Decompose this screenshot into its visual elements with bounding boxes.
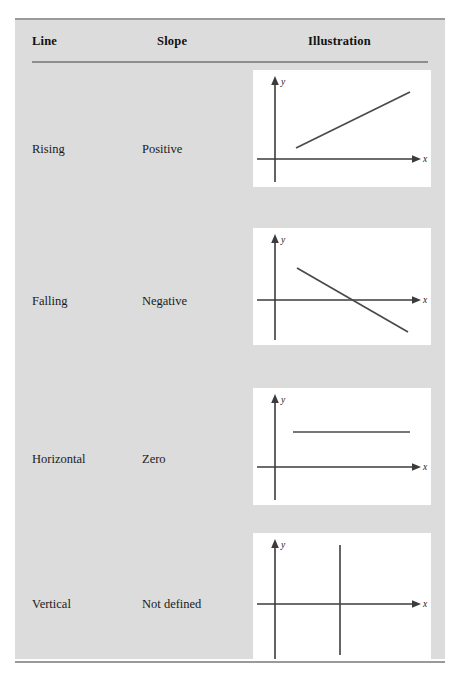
table-row: Rising Positive y x	[15, 62, 445, 222]
illustration-card-falling: y x	[253, 228, 431, 345]
falling-line-graph: y x	[253, 228, 431, 345]
figure-page: Line Slope Illustration Rising Positive …	[0, 0, 467, 691]
y-axis-arrowhead	[271, 76, 279, 85]
table-row: Falling Negative y x	[15, 222, 445, 377]
illustration-card-vertical: y x	[253, 533, 431, 661]
column-header-line: Line	[32, 34, 57, 49]
x-axis-label: x	[422, 295, 428, 305]
y-axis-arrowhead	[271, 234, 279, 243]
x-axis-arrowhead	[412, 600, 421, 608]
row-label-line: Rising	[32, 142, 65, 157]
row-label-slope: Zero	[142, 452, 166, 467]
table-header-row: Line Slope Illustration	[15, 20, 445, 62]
plotted-line	[296, 92, 410, 148]
row-label-line: Vertical	[32, 597, 71, 612]
horizontal-line-graph: y x	[253, 388, 431, 505]
row-label-line: Horizontal	[32, 452, 85, 467]
y-axis-label: y	[280, 235, 286, 245]
x-axis-arrowhead	[412, 463, 421, 471]
x-axis-label: x	[422, 599, 428, 609]
illustration-card-rising: y x	[253, 70, 431, 187]
vertical-line-graph: y x	[253, 533, 431, 661]
table-row: Vertical Not defined y x	[15, 535, 445, 659]
y-axis-label: y	[280, 540, 286, 550]
y-axis-label: y	[280, 395, 286, 405]
illustration-card-horizontal: y x	[253, 388, 431, 505]
y-axis-arrowhead	[271, 394, 279, 403]
column-header-illustration: Illustration	[308, 34, 371, 49]
x-axis-arrowhead	[412, 296, 421, 304]
rising-line-graph: y x	[253, 70, 431, 187]
x-axis-label: x	[422, 154, 428, 164]
row-label-slope: Positive	[142, 142, 182, 157]
y-axis-label: y	[280, 77, 286, 87]
table-row: Horizontal Zero y x	[15, 377, 445, 535]
row-label-slope: Not defined	[142, 597, 201, 612]
x-axis-label: x	[422, 462, 428, 472]
bottom-divider-rule	[15, 661, 445, 663]
row-label-slope: Negative	[142, 294, 187, 309]
column-header-slope: Slope	[157, 34, 187, 49]
slope-reference-table: Line Slope Illustration Rising Positive …	[15, 20, 445, 659]
x-axis-arrowhead	[412, 155, 421, 163]
row-label-line: Falling	[32, 294, 67, 309]
y-axis-arrowhead	[271, 539, 279, 548]
